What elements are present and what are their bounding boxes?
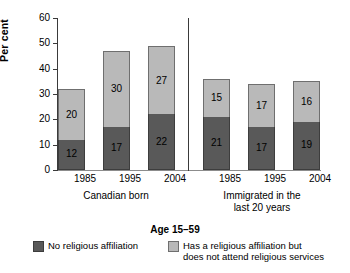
bar-immigrated-1985: 1521 bbox=[203, 79, 230, 170]
bar-segment-no-affiliation: 12 bbox=[58, 140, 85, 170]
bar-segment-has-affiliation: 15 bbox=[203, 79, 230, 117]
bar-canadian-1995: 3017 bbox=[103, 51, 130, 170]
bar-segment-no-affiliation: 21 bbox=[203, 117, 230, 170]
y-tick-label: 30 bbox=[39, 89, 50, 99]
x-tick-label: 1995 bbox=[250, 173, 300, 184]
bar-immigrated-1995: 1717 bbox=[248, 84, 275, 170]
y-tick-label: 20 bbox=[39, 114, 50, 124]
y-axis-tick bbox=[53, 69, 58, 70]
legend-swatch-icon bbox=[33, 241, 44, 252]
bar-segment-has-affiliation: 16 bbox=[293, 81, 320, 122]
age-range-label: Age 15–59 bbox=[0, 224, 350, 235]
x-tick-label: 2004 bbox=[150, 173, 200, 184]
bar-canadian-2004: 2722 bbox=[148, 46, 175, 170]
bar-segment-has-affiliation: 30 bbox=[103, 51, 130, 127]
bar-value-label: 27 bbox=[156, 76, 167, 86]
bar-value-label: 20 bbox=[66, 110, 77, 120]
y-tick-label: 10 bbox=[39, 140, 50, 150]
legend-item-no-religious-affiliation: No religious affiliation bbox=[33, 240, 138, 252]
bar-value-label: 17 bbox=[111, 143, 122, 153]
x-tick-label: 1985 bbox=[60, 173, 110, 184]
y-axis-title: Per cent bbox=[0, 19, 10, 62]
x-tick-label: 1995 bbox=[105, 173, 155, 184]
bar-segment-no-affiliation: 17 bbox=[248, 127, 275, 170]
y-axis-tick bbox=[53, 18, 58, 19]
bar-canadian-1985: 2012 bbox=[58, 89, 85, 170]
legend-label: does not attend religious services bbox=[183, 251, 324, 262]
legend-label-block: Has a religious affiliation but does not… bbox=[183, 240, 324, 262]
bar-value-label: 12 bbox=[66, 149, 77, 159]
y-axis-tick bbox=[53, 170, 58, 171]
bar-value-label: 17 bbox=[256, 101, 267, 111]
bar-value-label: 21 bbox=[211, 138, 222, 148]
legend-label: No religious affiliation bbox=[48, 240, 138, 251]
x-tick-label: 1985 bbox=[205, 173, 255, 184]
group-label-line: Immigrated in the bbox=[182, 190, 342, 202]
legend-swatch-icon bbox=[168, 241, 179, 252]
bar-value-label: 19 bbox=[301, 140, 312, 150]
group-label-line: Canadian born bbox=[36, 190, 196, 202]
y-tick-label: 60 bbox=[39, 13, 50, 23]
bar-segment-has-affiliation: 20 bbox=[58, 89, 85, 140]
bar-segment-has-affiliation: 17 bbox=[248, 84, 275, 127]
group-label-line: last 20 years bbox=[182, 202, 342, 214]
legend-item-has-religious-affiliation: Has a religious affiliation but does not… bbox=[168, 240, 324, 262]
bar-value-label: 16 bbox=[301, 97, 312, 107]
legend-label: Has a religious affiliation but bbox=[183, 240, 324, 251]
group-label-immigrated: Immigrated in the last 20 years bbox=[182, 190, 342, 213]
bar-segment-no-affiliation: 19 bbox=[293, 122, 320, 170]
y-tick-label: 0 bbox=[44, 165, 50, 175]
y-axis-tick bbox=[53, 43, 58, 44]
group-label-canadian-born: Canadian born bbox=[36, 190, 196, 202]
bar-chart: Per cent 0102030405060201230172722152117… bbox=[0, 0, 350, 273]
bar-value-label: 22 bbox=[156, 137, 167, 147]
bar-segment-no-affiliation: 22 bbox=[148, 114, 175, 170]
x-tick-label: 2004 bbox=[295, 173, 345, 184]
bar-segment-has-affiliation: 27 bbox=[148, 46, 175, 114]
y-tick-label: 50 bbox=[39, 38, 50, 48]
bar-immigrated-2004: 1619 bbox=[293, 81, 320, 170]
y-tick-label: 40 bbox=[39, 64, 50, 74]
bar-segment-no-affiliation: 17 bbox=[103, 127, 130, 170]
bar-value-label: 30 bbox=[111, 84, 122, 94]
x-axis-line bbox=[57, 170, 321, 171]
plot-area: 0102030405060201230172722152117171619 bbox=[58, 18, 320, 170]
bar-value-label: 17 bbox=[256, 143, 267, 153]
legend: No religious affiliation Has a religious… bbox=[0, 240, 350, 270]
bar-value-label: 15 bbox=[211, 93, 222, 103]
